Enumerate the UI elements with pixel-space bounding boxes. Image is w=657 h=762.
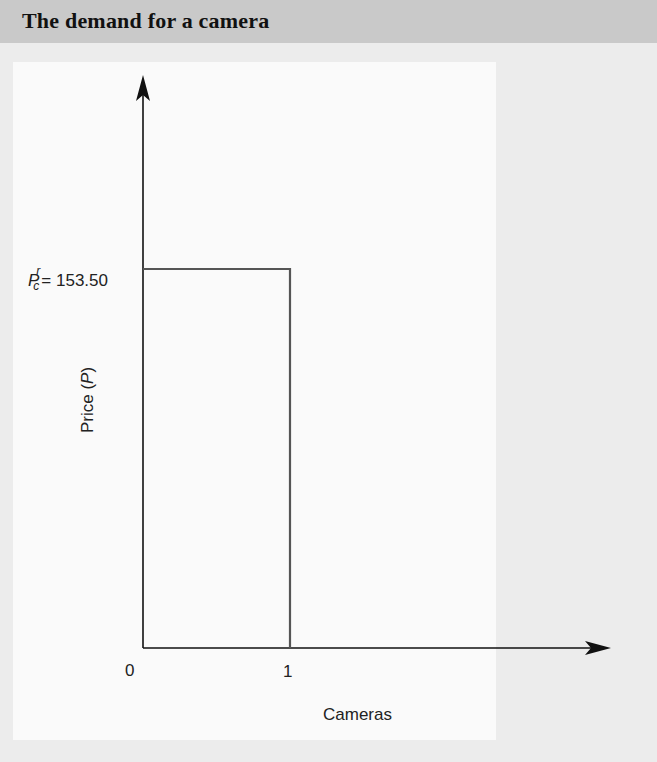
y-axis-label-var: P xyxy=(78,373,97,384)
price-superscript: r xyxy=(36,264,40,278)
demand-curve xyxy=(143,269,290,648)
price-subscript: c xyxy=(33,279,39,293)
y-axis-label-close: ) xyxy=(78,367,97,373)
y-axis-label: Price (P) xyxy=(78,367,98,433)
reservation-price-label: Prc= 153.50 xyxy=(28,268,116,293)
chart-canvas xyxy=(0,0,657,762)
price-value: = 153.50 xyxy=(41,271,108,290)
x-tick-0: 0 xyxy=(125,661,134,681)
x-tick-1: 1 xyxy=(283,662,292,682)
x-axis-label: Cameras xyxy=(323,705,392,725)
y-axis-label-text: Price ( xyxy=(78,384,97,433)
